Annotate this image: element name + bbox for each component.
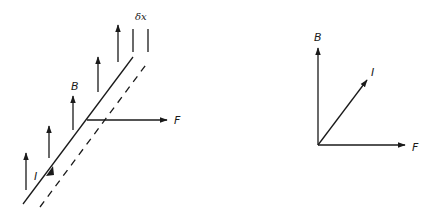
left-diagram: B I F δx <box>23 11 181 207</box>
force-label: F <box>412 141 419 154</box>
current-label: I <box>34 170 37 183</box>
field-label: B <box>314 31 322 44</box>
right-diagram: B I F <box>314 31 419 154</box>
displaced-conductor-wire <box>40 62 148 207</box>
displacement-label: δx <box>135 11 147 22</box>
current-label: I <box>371 66 374 79</box>
force-label: F <box>174 114 181 127</box>
field-label: B <box>71 80 79 93</box>
diagram-canvas: B I F δx B I F <box>0 0 441 215</box>
current-vector-icon <box>318 80 367 145</box>
